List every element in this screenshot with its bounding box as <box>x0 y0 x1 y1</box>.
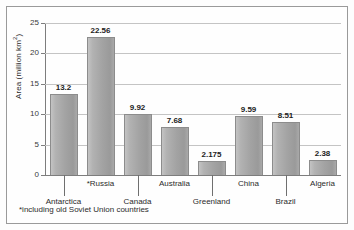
bar-slot: 2.175 <box>193 23 230 175</box>
bar[interactable] <box>161 127 189 175</box>
y-tick-label: 5 <box>35 141 39 149</box>
y-axis-label: Area (million km2) <box>15 34 23 99</box>
y-tick-label: 0 <box>35 171 39 179</box>
bar[interactable] <box>235 116 263 175</box>
bar[interactable] <box>124 114 152 175</box>
bar-value-label: 2.38 <box>315 150 331 158</box>
y-axis-label-exponent: 2 <box>12 37 18 40</box>
plot-area: 0510152025 13.222.569.927.682.1759.598.5… <box>45 23 341 175</box>
y-axis-label-suffix: ) <box>14 34 23 37</box>
bar-slot: 22.56 <box>82 23 119 175</box>
bar-slot: 7.68 <box>156 23 193 175</box>
y-tick-label: 25 <box>30 19 39 27</box>
bar[interactable] <box>272 122 300 175</box>
bar-slot: 9.92 <box>119 23 156 175</box>
bar-value-label: 9.59 <box>241 106 257 114</box>
bar-value-label: 22.56 <box>90 27 110 35</box>
bar-value-label: 13.2 <box>56 84 72 92</box>
bar[interactable] <box>87 37 115 175</box>
y-tick-label: 20 <box>30 49 39 57</box>
chart-figure: Area (million km2) 0510152025 13.222.569… <box>0 0 354 230</box>
bar[interactable] <box>309 160 337 175</box>
bar-value-label: 2.175 <box>201 151 221 159</box>
y-tick-label: 10 <box>30 110 39 118</box>
category-label: Greenland <box>193 197 230 206</box>
bar[interactable] <box>198 161 226 175</box>
bar-value-label: 8.51 <box>278 112 294 120</box>
category-label: Brazil <box>275 197 295 206</box>
category-leader-line <box>138 175 139 196</box>
y-axis-label-text: Area (million km <box>14 40 23 99</box>
category-label: Australia <box>159 179 190 188</box>
bar-slot: 13.2 <box>45 23 82 175</box>
bar-slot: 8.51 <box>267 23 304 175</box>
bar[interactable] <box>50 94 78 175</box>
gridline <box>45 175 341 176</box>
category-leader-line <box>212 175 213 196</box>
category-label: *Russia <box>87 179 115 188</box>
bar-value-label: 9.92 <box>130 104 146 112</box>
category-label: Algeria <box>310 179 335 188</box>
bar-slot: 2.38 <box>304 23 341 175</box>
chart-footnote: *including old Soviet Union countries <box>19 205 149 214</box>
category-label: China <box>238 179 259 188</box>
bar-value-label: 7.68 <box>167 117 183 125</box>
y-tick-mark <box>41 175 45 176</box>
category-leader-line <box>64 175 65 196</box>
y-tick-label: 15 <box>30 80 39 88</box>
chart-frame: Area (million km2) 0510152025 13.222.569… <box>6 6 348 224</box>
bar-slot: 9.59 <box>230 23 267 175</box>
category-leader-line <box>286 175 287 196</box>
